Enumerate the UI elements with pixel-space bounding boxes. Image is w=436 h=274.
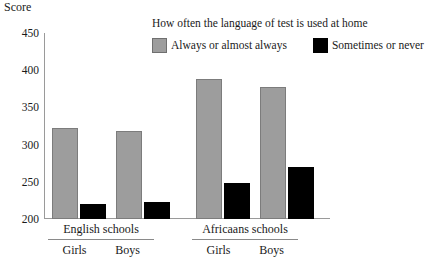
bars-layer — [44, 33, 330, 219]
group-label-1: Africaans schools — [192, 222, 298, 238]
y-axis-caption: Score — [4, 0, 31, 14]
legend-label-sometimes: Sometimes or never — [332, 39, 424, 52]
y-tick-label-350: 350 — [22, 101, 39, 113]
bar-always-0 — [52, 128, 78, 219]
bar-chart: Score How often the language of test is … — [0, 0, 436, 274]
plot-area: 450400350300250200 — [44, 33, 330, 219]
x-axis-labels: English schoolsGirlsBoysAfricaans school… — [44, 222, 330, 274]
group-name-1: Africaans schools — [192, 222, 298, 238]
group-name-0: English schools — [48, 222, 154, 238]
bar-sometimes-3 — [288, 167, 314, 219]
bar-always-2 — [196, 79, 222, 219]
subgroup-label-1-0: Girls — [192, 243, 245, 258]
subgroup-label-0-1: Boys — [101, 243, 154, 258]
group-rule-0 — [48, 239, 154, 240]
bar-always-1 — [116, 131, 142, 219]
group-rule-1 — [192, 239, 298, 240]
y-tick-label-200: 200 — [22, 213, 39, 225]
y-tick-label-400: 400 — [22, 64, 39, 76]
subgroup-label-0-0: Girls — [48, 243, 101, 258]
y-tick-label-300: 300 — [22, 139, 39, 151]
subgroup-label-1-1: Boys — [245, 243, 298, 258]
bar-sometimes-1 — [144, 202, 170, 219]
bar-always-3 — [260, 87, 286, 219]
group-label-0: English schools — [48, 222, 154, 238]
bar-sometimes-0 — [80, 204, 106, 219]
y-tick-label-250: 250 — [22, 176, 39, 188]
bar-sometimes-2 — [224, 183, 250, 219]
legend-title: How often the language of test is used a… — [152, 16, 436, 30]
y-tick-label-450: 450 — [22, 27, 39, 39]
